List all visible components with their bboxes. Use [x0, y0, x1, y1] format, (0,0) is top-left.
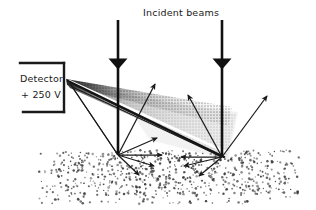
- incident-beams-label: Incident beams: [143, 7, 219, 18]
- incident-beams: [109, 20, 232, 157]
- right-incident-beam-barb: [213, 59, 232, 70]
- detector-label: Detector: [20, 73, 63, 84]
- scatter-arrow-right-up-right: [222, 96, 267, 157]
- scatter-arrow-left-diag-1: [118, 138, 157, 155]
- detector-voltage-label: + 250 V: [21, 89, 61, 100]
- scattering-diagram: Incident beams Detector + 250 V: [0, 0, 316, 210]
- diagram-linework: [0, 0, 316, 210]
- scatter-arrows-right: [181, 95, 267, 176]
- detector-bracket: [20, 63, 64, 112]
- scatter-arrows-left: [118, 84, 162, 175]
- collection-ray-right-2: [72, 87, 223, 158]
- left-incident-beam-barb: [109, 59, 128, 70]
